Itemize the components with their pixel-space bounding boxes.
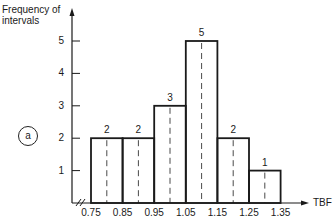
y-tick-label: 3	[44, 100, 64, 111]
bar-value-label: 2	[97, 124, 117, 135]
bar-value-label: 2	[128, 124, 148, 135]
y-tick-label: 5	[44, 35, 64, 46]
y-axis-arrow-icon	[70, 8, 75, 16]
x-tick-label: 0.85	[108, 207, 138, 218]
x-tick-label: 1.15	[202, 207, 232, 218]
y-tick-label: 4	[44, 67, 64, 78]
bar-value-label: 1	[255, 157, 275, 168]
y-tick-label: 2	[44, 132, 64, 143]
bar-value-label: 3	[160, 92, 180, 103]
x-tick-label: 1.25	[234, 207, 264, 218]
x-tick-label: 0.95	[139, 207, 169, 218]
x-axis-arrow-icon	[301, 201, 309, 206]
x-tick-label: 1.35	[266, 207, 296, 218]
x-tick-label: 0.75	[76, 207, 106, 218]
x-axis-label: TBF	[313, 197, 332, 208]
bar-value-label: 2	[223, 124, 243, 135]
y-tick-label: 1	[44, 165, 64, 176]
axes	[70, 8, 310, 206]
x-tick-label: 1.05	[171, 207, 201, 218]
bars	[91, 41, 281, 203]
bar-value-label: 5	[192, 27, 212, 38]
